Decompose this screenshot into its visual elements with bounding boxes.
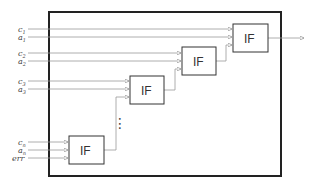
input-a3: a3 [18,85,129,95]
input-c3: c3 [18,77,129,87]
if-block-2: IF [130,76,164,104]
input-cn: cn [18,138,68,148]
if-block-3: IF [182,47,216,75]
svg-text:IF: IF [80,144,91,158]
wire-if3-to-if4 [216,45,232,61]
input-c1: c1 [18,25,232,35]
input-err: err [12,154,68,163]
svg-text:IF: IF [193,55,204,69]
if-cascade-diagram: c1 a1 c2 a2 c3 a3 cn an err ⋮ IF [0,0,317,185]
svg-text:err: err [12,154,26,163]
ellipsis: ⋮ [113,115,127,131]
wire-if2-to-if3 [164,69,181,90]
input-c2: c2 [18,49,181,59]
input-a1: a1 [18,33,232,43]
if-block-1: IF [69,136,104,164]
svg-text:IF: IF [141,84,152,98]
input-a2: a2 [18,57,181,67]
svg-text:IF: IF [244,32,255,46]
if-block-4: IF [233,24,268,52]
